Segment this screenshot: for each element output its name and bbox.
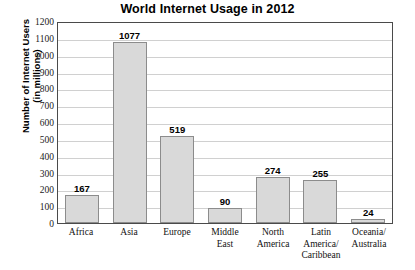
bar-slot: 167 xyxy=(58,23,106,223)
y-axis-tick-label: 200 xyxy=(8,185,54,195)
bar-slot: 255 xyxy=(297,23,345,223)
y-axis-tick-label: 300 xyxy=(8,169,54,179)
bar-value-label: 1077 xyxy=(119,30,140,41)
bar[interactable]: 24 xyxy=(351,219,385,223)
bar-value-label: 24 xyxy=(363,207,374,218)
bar[interactable]: 1077 xyxy=(113,42,147,223)
bar[interactable]: 274 xyxy=(256,177,290,223)
y-axis-tick-label: 800 xyxy=(8,84,54,94)
bar[interactable]: 519 xyxy=(160,136,194,223)
x-axis-tick-label-line: Africa xyxy=(57,227,105,239)
x-axis-tick-label-line: Latin xyxy=(297,227,345,239)
bar-chart: World Internet Usage in 2012 Number of I… xyxy=(0,0,415,270)
bar-value-label: 167 xyxy=(74,183,90,194)
bar-slot: 519 xyxy=(153,23,201,223)
x-axis-tick-label-line: North xyxy=(249,227,297,239)
bar-slot: 274 xyxy=(249,23,297,223)
x-axis-tick-label: NorthAmerica xyxy=(249,227,297,269)
x-axis-tick-label: LatinAmerica/Caribbean xyxy=(297,227,345,269)
y-axis-tick-label: 700 xyxy=(8,101,54,111)
bar[interactable]: 167 xyxy=(65,195,99,223)
bar-value-label: 90 xyxy=(220,196,231,207)
x-axis-tick-label: MiddleEast xyxy=(201,227,249,269)
x-axis-tick-labels: AfricaAsiaEuropeMiddleEastNorthAmericaLa… xyxy=(57,227,393,269)
bar-value-label: 519 xyxy=(169,124,185,135)
x-axis-tick-label: Asia xyxy=(105,227,153,269)
bar[interactable]: 90 xyxy=(208,208,242,223)
x-axis-tick-label-line: Australia xyxy=(345,239,393,251)
y-axis-tick-label: 100 xyxy=(8,202,54,212)
y-axis-tick-label: 400 xyxy=(8,152,54,162)
bar-value-label: 274 xyxy=(265,165,281,176)
bar-slot: 1077 xyxy=(106,23,154,223)
x-axis-tick-label-line: America xyxy=(249,239,297,251)
x-axis-tick-label: Africa xyxy=(57,227,105,269)
chart-title: World Internet Usage in 2012 xyxy=(0,2,415,16)
y-axis-tick-label: 0 xyxy=(8,219,54,229)
y-axis-tick-label: 600 xyxy=(8,118,54,128)
bar[interactable]: 255 xyxy=(303,180,337,223)
bar-slot: 24 xyxy=(344,23,392,223)
plot-area: 16710775199027425524 xyxy=(57,22,393,224)
x-axis-tick-label-line: Asia xyxy=(105,227,153,239)
x-axis-tick-label: Europe xyxy=(153,227,201,269)
x-axis-tick-label-line: Caribbean xyxy=(297,250,345,262)
bar-value-label: 255 xyxy=(313,168,329,179)
y-axis-tick-label: 1100 xyxy=(8,34,54,44)
y-axis-tick-label: 1000 xyxy=(8,51,54,61)
x-axis-tick-label-line: America/ xyxy=(297,239,345,251)
x-axis-tick-label-line: East xyxy=(201,239,249,251)
bar-series: 16710775199027425524 xyxy=(58,23,392,223)
y-axis-tick-label: 500 xyxy=(8,135,54,145)
x-axis-tick-label-line: Europe xyxy=(153,227,201,239)
bar-slot: 90 xyxy=(201,23,249,223)
x-axis-tick-label-line: Oceania/ xyxy=(345,227,393,239)
x-axis-tick-label-line: Middle xyxy=(201,227,249,239)
x-axis-tick-label: Oceania/Australia xyxy=(345,227,393,269)
y-axis-tick-label: 1200 xyxy=(8,17,54,27)
y-axis-tick-label: 900 xyxy=(8,68,54,78)
